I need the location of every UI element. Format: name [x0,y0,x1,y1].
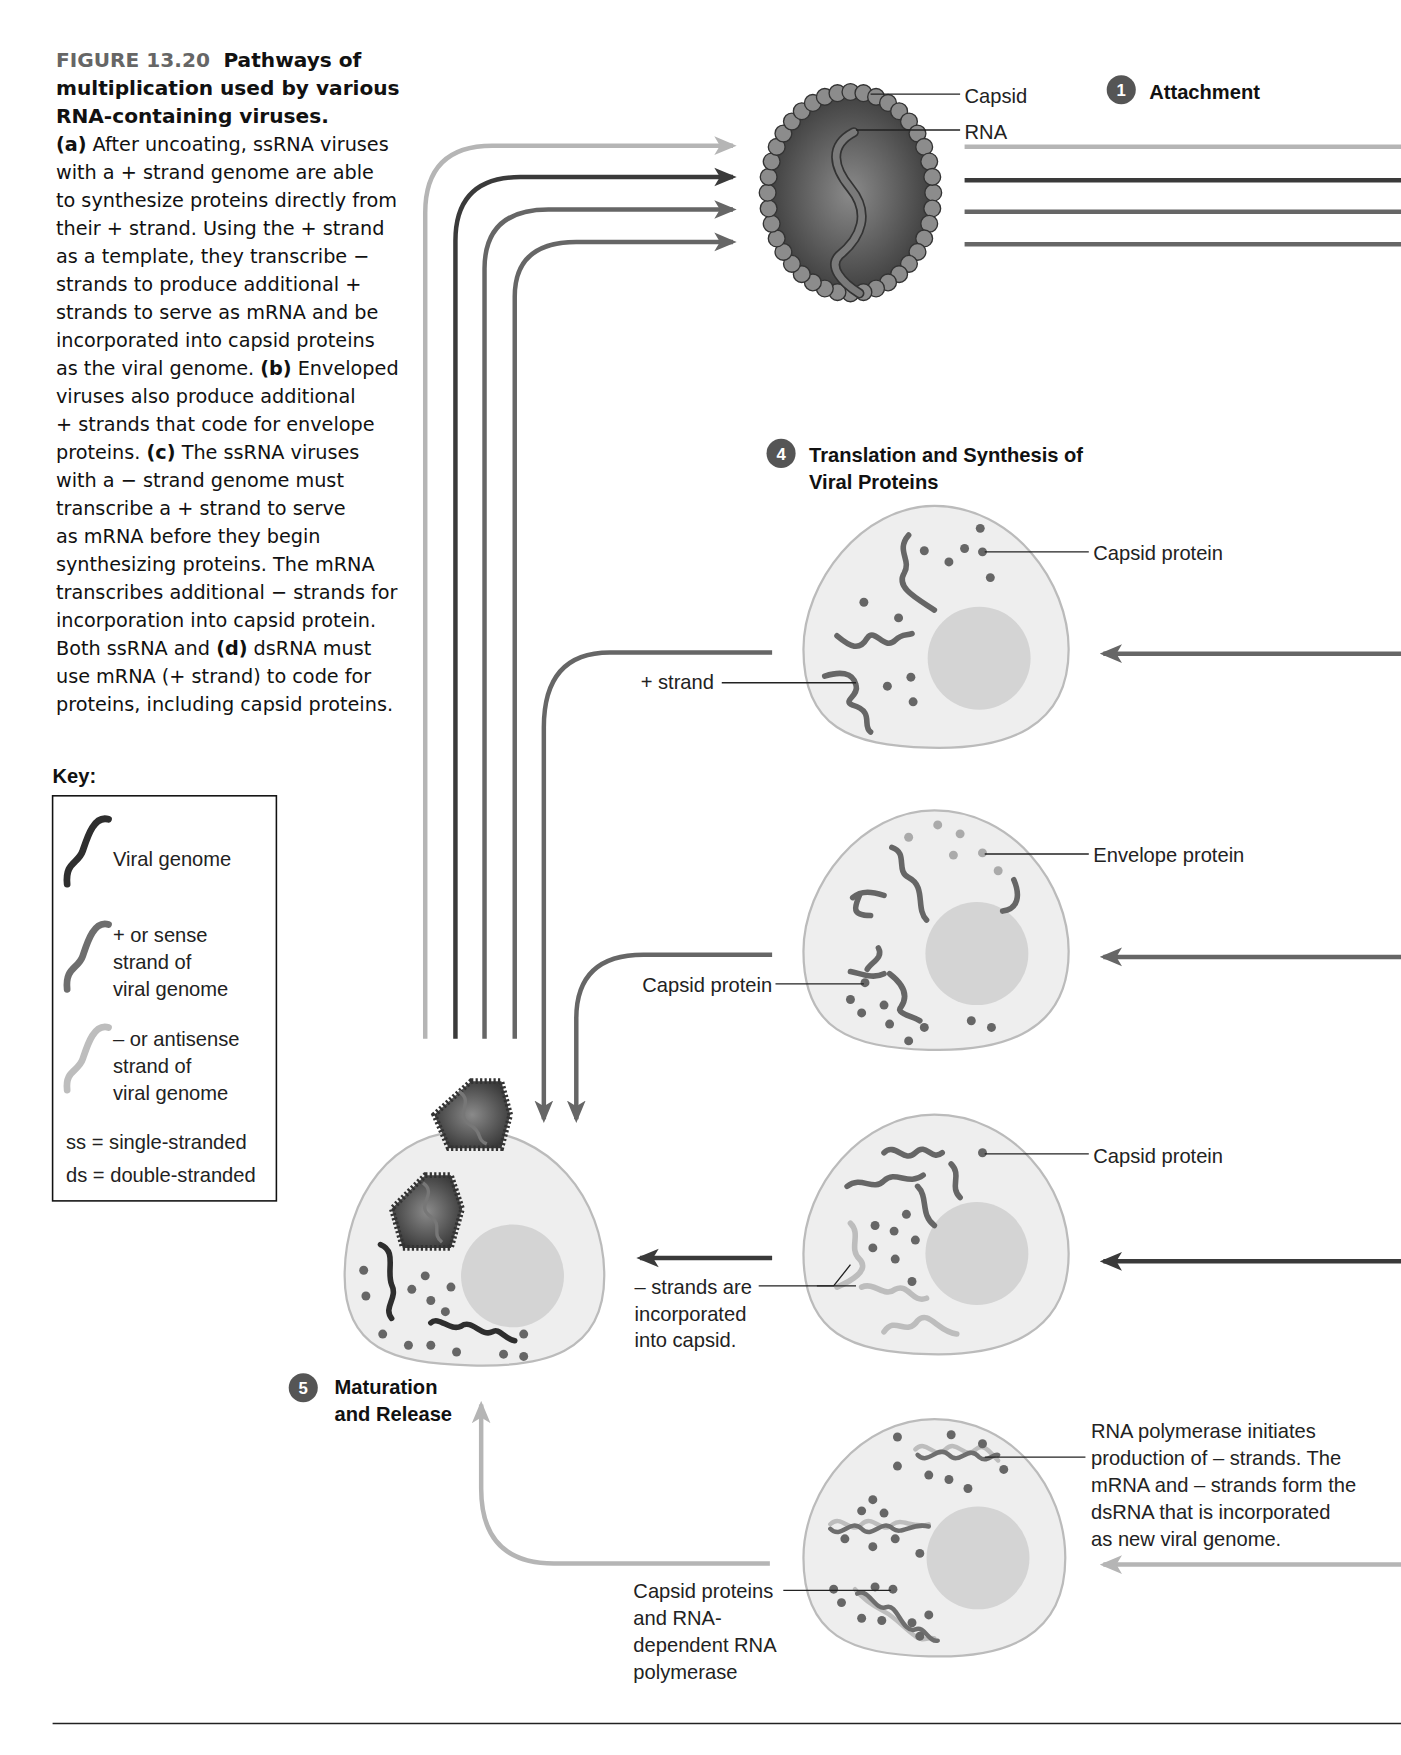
cell-pathway-b: Envelope protein Capsid protein [576,810,1401,1119]
svg-text:FIGURE 13.20Pathways of: FIGURE 13.20Pathways of [56,48,362,72]
envelope-protein-label: Envelope protein [1093,844,1244,866]
caption-body-line: as the viral genome. (b) Enveloped [56,357,399,380]
key-legend: Key: Viral genome + or sense strand of v… [53,766,277,1201]
pathway-arrow-sense-a [485,209,733,1038]
caption-body: (a) After uncoating, ssRNA viruseswith a… [56,133,399,716]
key-abbrev-ss: ss = single-stranded [66,1131,247,1153]
polymerase-label-line1: Capsid proteins [633,1580,773,1602]
key-item-antisense-line2: strand of [113,1055,192,1077]
step-4-number: 4 [776,445,786,464]
dsrna-note-line2: production of – strands. The [1091,1447,1341,1469]
figure-13-20: FIGURE 13.20Pathways of multiplication u… [0,0,1401,1755]
figure-caption: FIGURE 13.20Pathways of multiplication u… [56,48,400,715]
step-5-maturation: 5 Maturation and Release [289,1373,452,1425]
dsrna-note-line1: RNA polymerase initiates [1091,1420,1316,1442]
pathway-arrow-ds [455,177,733,1039]
minus-strands-label-line3: into capsid. [634,1329,736,1351]
caption-body-line: to synthesize proteins directly from [56,189,397,212]
cell-c-capsid-protein-label: Capsid protein [1093,1145,1223,1167]
caption-body-line: proteins, including capsid proteins. [56,693,393,716]
polymerase-label-line4: polymerase [633,1661,737,1683]
step-5-label-line2: and Release [335,1403,452,1425]
caption-body-line: (a) After uncoating, ssRNA viruses [56,133,389,156]
key-item-viral-genome: Viral genome [113,848,231,870]
step-1-attachment: 1 Attachment [1107,75,1261,104]
caption-body-line: incorporated into capsid proteins [56,329,375,352]
cell-d-output-arrow [481,1405,770,1564]
caption-title-line1: Pathways of [223,48,361,72]
cell-b-capsid-protein-label: Capsid protein [642,974,772,996]
dsrna-note-line3: mRNA and – strands form the [1091,1474,1356,1496]
caption-body-line: strands to serve as mRNA and be [56,301,378,324]
capsid-label: Capsid [965,85,1028,107]
step-5-label-line1: Maturation [335,1376,438,1398]
caption-body-line: transcribes additional − strands for [56,581,398,604]
dsrna-note-line5: as new viral genome. [1091,1528,1281,1550]
polymerase-label-line2: and RNA- [633,1607,721,1629]
sense-strand-icon [67,924,109,989]
viral-genome-strand-icon [67,819,109,884]
caption-body-line: viruses also produce additional [56,385,356,408]
caption-title-line2: multiplication used by various [56,76,400,100]
caption-body-line: their + strand. Using the + strand [56,217,385,240]
figure-label: FIGURE 13.20 [56,48,210,72]
dsrna-note-line4: dsRNA that is incorporated [1091,1501,1330,1523]
caption-body-line: strands to produce additional + [56,273,361,296]
caption-body-line: Both ssRNA and (d) dsRNA must [56,637,372,660]
pathway-arrow-antisense [425,146,733,1039]
exit-pathway-lines [965,147,1401,244]
caption-body-line: transcribe a + strand to serve [56,497,346,520]
caption-body-line: incorporation into capsid protein. [56,609,376,632]
caption-body-line: with a + strand genome are able [56,161,374,184]
key-item-sense-line3: viral genome [113,978,228,1000]
budding-virion-icon [434,1081,510,1148]
caption-title-line3: RNA-containing viruses. [56,104,329,128]
caption-body-line: use mRNA (+ strand) to code for [56,665,371,688]
cell-a-capsid-protein-label: Capsid protein [1093,542,1223,564]
pathway-arrow-sense-b [515,242,733,1039]
caption-body-line: proteins. (c) The ssRNA viruses [56,441,359,464]
minus-strands-label-line1: – strands are [634,1276,751,1298]
step-4-label-line2: Viral Proteins [809,471,938,493]
key-item-antisense-line1: – or antisense [113,1028,239,1050]
caption-body-line: with a − strand genome must [56,469,344,492]
diagram-canvas: FIGURE 13.20Pathways of multiplication u… [0,0,1401,1755]
antisense-strand-icon [67,1027,109,1090]
entry-pathway-arrows [425,146,733,1039]
caption-body-line: as a template, they transcribe − [56,245,370,268]
cell-pathway-c: Capsid protein – strands are incorporate… [634,1115,1401,1355]
plus-strand-label: + strand [641,672,714,694]
polymerase-label-line3: dependent RNA [633,1634,777,1656]
cell-pathway-d: RNA polymerase initiates production of –… [481,1405,1401,1683]
step-1-label: Attachment [1149,81,1260,103]
rna-label: RNA [965,121,1008,143]
minus-strands-label-line2: incorporated [634,1303,746,1325]
step-4-translation: 4 Translation and Synthesis of Viral Pro… [767,439,1084,493]
caption-body-line: as mRNA before they begin [56,525,321,548]
maturation-cell [345,1081,605,1365]
caption-body-line: + strands that code for envelope [56,413,375,436]
step-4-label-line1: Translation and Synthesis of [809,444,1083,466]
key-item-sense-line1: + or sense [113,924,208,946]
caption-body-line: synthesizing proteins. The mRNA [56,553,375,576]
key-item-antisense-line3: viral genome [113,1082,228,1104]
virion-attachment: Capsid RNA [759,84,1027,302]
step-5-number: 5 [299,1379,308,1398]
step-1-number: 1 [1117,81,1126,100]
key-abbrev-ds: ds = double-stranded [66,1164,256,1186]
key-item-sense-line2: strand of [113,951,192,973]
key-heading: Key: [53,766,97,788]
